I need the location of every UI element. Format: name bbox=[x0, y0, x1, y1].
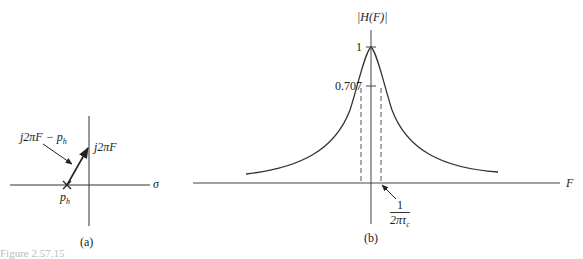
subfigure-a-label: (a) bbox=[80, 235, 93, 250]
tick-707-label: 0.707 bbox=[335, 79, 362, 94]
cutoff-pointer-arrow bbox=[382, 185, 396, 199]
y-axis-label: |H(F)| bbox=[357, 10, 388, 25]
label-pointer-arrow bbox=[43, 144, 72, 164]
figure-caption: Figure 2.57.15 bbox=[0, 247, 64, 259]
x-axis-label: F bbox=[566, 176, 573, 191]
magnitude-response-plot bbox=[193, 30, 560, 224]
sigma-label: σ bbox=[153, 177, 159, 192]
tick-one-label: 1 bbox=[356, 40, 362, 55]
pole-label: ph bbox=[60, 190, 70, 206]
vector-label: j2πF − ph bbox=[20, 130, 67, 146]
point-label: j2πF bbox=[94, 140, 117, 155]
subfigure-b-label: (b) bbox=[364, 231, 378, 246]
pole-vector-arrow bbox=[67, 148, 88, 185]
cutoff-frequency-label: 1 2πτc bbox=[390, 199, 410, 232]
response-curve bbox=[246, 47, 498, 174]
